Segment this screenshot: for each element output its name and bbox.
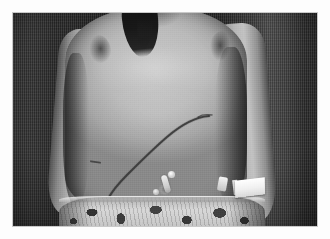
stoma-knob	[153, 189, 159, 195]
photograph	[13, 13, 317, 226]
stoma-tube-tip	[168, 171, 175, 178]
page-root	[0, 0, 330, 239]
shorts-shading	[59, 197, 265, 226]
arm-tape-bandage	[235, 177, 265, 198]
